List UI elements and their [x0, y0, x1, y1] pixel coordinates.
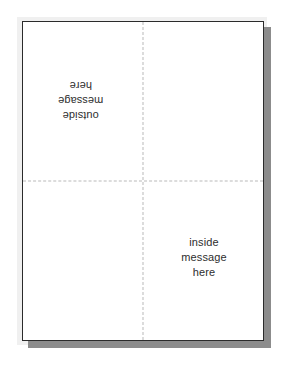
folded-card-sheet[interactable]: outside message here inside message here	[22, 21, 264, 341]
outside-message-panel[interactable]: outside message here	[23, 22, 143, 181]
screenshot-root: outside message here inside message here	[0, 0, 287, 373]
inside-message-panel[interactable]: inside message here	[143, 181, 263, 340]
inside-message-text: inside message here	[181, 235, 226, 280]
blank-panel-top-right[interactable]	[143, 22, 263, 181]
outside-message-text: outside message here	[58, 78, 103, 123]
blank-panel-bottom-left[interactable]	[23, 181, 143, 340]
